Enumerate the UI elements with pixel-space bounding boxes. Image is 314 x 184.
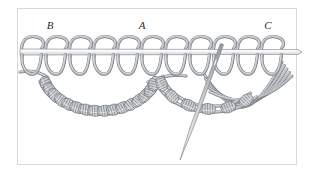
figure-label-c: C — [264, 19, 272, 31]
figure-label-a: A — [138, 19, 146, 31]
figure-container: BAC — [0, 0, 314, 184]
figure-label-b: B — [47, 19, 54, 31]
stitch-diagram-svg: BAC — [0, 0, 314, 184]
